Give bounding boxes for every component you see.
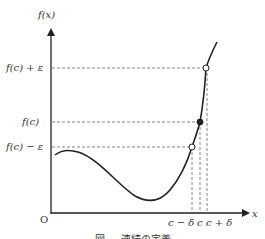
x-tick-middle: c [197,217,203,228]
horizontal-guides [52,68,206,147]
x-tick-left: c − δ [168,217,194,228]
continuity-diagram: f(x) x O f(c) + ε f(c) f(c) − ε c − δ c … [0,0,265,239]
open-point-lower [189,144,195,150]
y-tick-lower: f(c) − ε [5,141,43,152]
filled-point-middle [197,119,203,125]
open-point-upper [203,65,209,71]
x-axis-label: x [252,208,258,219]
y-axis-label: f(x) [37,9,55,20]
y-tick-middle: f(c) [21,116,39,127]
figure-caption: 図 — 連続の定義 [95,233,171,239]
origin-label: O [40,214,48,225]
function-curve [55,42,217,200]
y-tick-upper: f(c) + ε [5,62,43,73]
x-tick-right: c + δ [206,217,232,228]
